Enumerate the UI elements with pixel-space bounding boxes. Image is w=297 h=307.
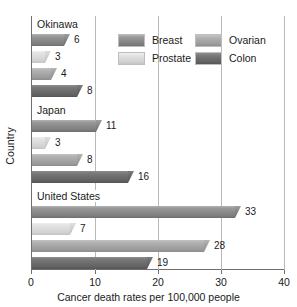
bar-tip bbox=[45, 137, 51, 149]
bar-value-united-states-prostate: 7 bbox=[80, 223, 86, 235]
x-tick-0 bbox=[31, 270, 32, 274]
bar-shaft bbox=[32, 223, 70, 235]
bar-tip bbox=[77, 154, 83, 166]
bar-shaft bbox=[32, 257, 147, 269]
x-tick-30 bbox=[221, 270, 222, 274]
bar-shaft bbox=[32, 206, 235, 218]
legend-item-breast[interactable]: Breast bbox=[118, 31, 191, 49]
bar-tip bbox=[128, 171, 134, 183]
bar-japan-colon[interactable] bbox=[32, 171, 134, 183]
bar-okinawa-ovarian[interactable] bbox=[32, 68, 57, 80]
breast-swatch-icon bbox=[118, 34, 145, 47]
bar-shaft bbox=[32, 85, 77, 97]
bar-value-okinawa-ovarian: 4 bbox=[61, 68, 67, 80]
bar-shaft bbox=[32, 34, 64, 46]
legend-label-breast: Breast bbox=[152, 34, 182, 46]
group-label-okinawa: Okinawa bbox=[35, 18, 80, 30]
bar-japan-breast[interactable] bbox=[32, 120, 102, 132]
x-tick-label-0: 0 bbox=[16, 276, 46, 288]
bar-japan-ovarian[interactable] bbox=[32, 154, 83, 166]
bar-tip bbox=[96, 120, 102, 132]
x-tick-label-40: 40 bbox=[269, 276, 297, 288]
bar-value-okinawa-colon: 8 bbox=[87, 85, 93, 97]
bar-shaft bbox=[32, 68, 51, 80]
bar-value-japan-breast: 11 bbox=[106, 120, 116, 132]
x-tick-10 bbox=[95, 270, 96, 274]
bar-value-japan-ovarian: 8 bbox=[87, 154, 93, 166]
gridline-40 bbox=[284, 16, 285, 270]
bar-tip bbox=[204, 240, 210, 252]
bar-value-okinawa-breast: 6 bbox=[74, 34, 80, 46]
legend-label-ovarian: Ovarian bbox=[229, 34, 266, 46]
bar-value-japan-colon: 16 bbox=[138, 171, 149, 183]
bar-shaft bbox=[32, 51, 45, 63]
x-axis-title: Cancer death rates per 100,000 people bbox=[0, 291, 297, 303]
bar-tip bbox=[51, 68, 57, 80]
y-axis-title: Country bbox=[4, 114, 16, 178]
prostate-swatch-icon bbox=[118, 52, 145, 65]
x-tick-label-10: 10 bbox=[80, 276, 110, 288]
legend-column-right: Ovarian Colon bbox=[195, 31, 266, 67]
legend-label-prostate: Prostate bbox=[152, 52, 191, 64]
bar-value-okinawa-prostate: 3 bbox=[55, 51, 61, 63]
bar-shaft bbox=[32, 120, 96, 132]
colon-swatch-icon bbox=[195, 52, 222, 65]
bar-value-japan-prostate: 3 bbox=[55, 137, 61, 149]
bar-tip bbox=[64, 34, 70, 46]
bar-value-united-states-breast: 33 bbox=[245, 206, 256, 218]
bar-tip bbox=[77, 85, 83, 97]
bar-chart: Country Okinawa 6 3 4 8 Japan bbox=[0, 0, 297, 307]
legend-item-colon[interactable]: Colon bbox=[195, 49, 266, 67]
bar-okinawa-breast[interactable] bbox=[32, 34, 70, 46]
legend-item-prostate[interactable]: Prostate bbox=[118, 49, 191, 67]
group-label-united-states: United States bbox=[35, 190, 102, 202]
x-tick-40 bbox=[284, 270, 285, 274]
bar-shaft bbox=[32, 240, 204, 252]
x-tick-label-30: 30 bbox=[206, 276, 236, 288]
bar-value-united-states-colon: 19 bbox=[157, 257, 168, 269]
bar-shaft bbox=[32, 137, 45, 149]
ovarian-swatch-icon bbox=[195, 34, 222, 47]
bar-united-states-colon[interactable] bbox=[32, 257, 153, 269]
bar-united-states-breast[interactable] bbox=[32, 206, 241, 218]
bar-tip bbox=[45, 51, 51, 63]
bar-okinawa-prostate[interactable] bbox=[32, 51, 51, 63]
bar-value-united-states-ovarian: 28 bbox=[214, 240, 225, 252]
x-tick-label-20: 20 bbox=[143, 276, 173, 288]
gridline-10 bbox=[95, 16, 96, 270]
bar-united-states-ovarian[interactable] bbox=[32, 240, 210, 252]
bar-tip bbox=[147, 257, 153, 269]
bar-united-states-prostate[interactable] bbox=[32, 223, 76, 235]
bar-okinawa-colon[interactable] bbox=[32, 85, 83, 97]
x-tick-20 bbox=[158, 270, 159, 274]
legend-column-left: Breast Prostate bbox=[118, 31, 191, 67]
bar-shaft bbox=[32, 171, 128, 183]
legend-item-ovarian[interactable]: Ovarian bbox=[195, 31, 266, 49]
bar-japan-prostate[interactable] bbox=[32, 137, 51, 149]
legend-label-colon: Colon bbox=[229, 52, 256, 64]
bar-tip bbox=[235, 206, 241, 218]
bar-tip bbox=[70, 223, 76, 235]
bar-shaft bbox=[32, 154, 77, 166]
group-label-japan: Japan bbox=[35, 104, 68, 116]
